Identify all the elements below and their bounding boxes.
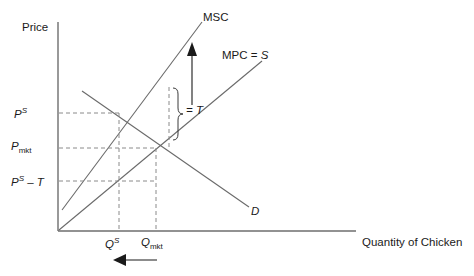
quantity-tick-qs: QS	[105, 237, 119, 250]
quantity-tick-qs-base: Q	[105, 238, 114, 250]
quantity-tick-qmkt-sub: mkt	[150, 242, 163, 251]
price-tick-ps: PS	[14, 107, 27, 120]
tax-annotation-label: = T	[186, 105, 203, 117]
mpc-curve-label: MPC = S	[222, 50, 268, 62]
quantity-tick-qmkt: Qmkt	[141, 237, 163, 251]
mpc-curve-label-symbol: S	[261, 49, 269, 61]
price-tick-ps-base: P	[14, 108, 22, 120]
quantity-tick-qmkt-base: Q	[141, 236, 150, 248]
x-axis-label: Quantity of Chicken	[362, 237, 462, 249]
msc-curve	[62, 22, 202, 210]
shift-arrow-head	[187, 42, 197, 56]
tax-brace	[173, 88, 183, 140]
mpc-curve-label-prefix: MPC =	[222, 49, 261, 61]
msc-curve-label: MSC	[203, 12, 229, 24]
price-tick-ps-minus-t: PS – T	[11, 175, 44, 188]
quantity-tick-qs-sup: S	[114, 236, 119, 245]
externality-tax-diagram: Price Quantity of Chicken MSC MPC = S D …	[0, 0, 474, 276]
price-tick-ps-sup: S	[22, 106, 27, 115]
price-tick-ps-minus-t-suffix: – T	[24, 176, 44, 188]
price-tick-pmkt-sub: mkt	[19, 146, 32, 155]
price-tick-pmkt: Pmkt	[11, 141, 32, 155]
price-tick-ps-minus-t-base: P	[11, 176, 19, 188]
demand-curve-label: D	[251, 206, 259, 218]
price-tick-pmkt-base: P	[11, 140, 19, 152]
quantity-arrow-head	[113, 254, 126, 266]
diagram-canvas	[0, 0, 474, 276]
y-axis-label: Price	[22, 22, 48, 34]
